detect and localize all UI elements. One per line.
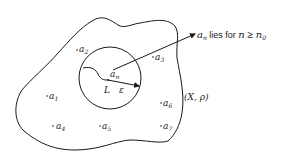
- limit-label: L: [103, 85, 110, 95]
- space-label: (X, ρ): [184, 92, 209, 102]
- sequence-point-a6: a6: [160, 98, 172, 109]
- sequence-point-a1: a1: [46, 91, 58, 102]
- sequence-point-a5: a5: [99, 121, 111, 132]
- svg-text:a1: a1: [49, 91, 58, 102]
- limit-path: [83, 67, 107, 80]
- annotation-text: an lies for n ≥ n0: [197, 29, 266, 41]
- svg-text:a5: a5: [102, 121, 111, 132]
- metric-space-boundary: [16, 18, 183, 150]
- sequence-point-a2: a2: [76, 44, 88, 55]
- limit-point-dot: [107, 79, 109, 81]
- svg-text:a4: a4: [56, 121, 65, 132]
- sequence-point-a3: a3: [152, 52, 164, 63]
- annotation-arrow: [113, 34, 195, 70]
- an-label: an: [110, 69, 119, 80]
- svg-text:a6: a6: [163, 98, 172, 109]
- svg-text:a2: a2: [79, 44, 88, 55]
- sequence-point-a7: a7: [160, 121, 172, 132]
- svg-text:a7: a7: [163, 121, 172, 132]
- svg-text:a3: a3: [155, 52, 164, 63]
- convergence-diagram: an lies for n ≥ n0 an L ε (X, ρ) a1 a2 a…: [0, 0, 293, 164]
- sequence-point-a4: a4: [52, 121, 65, 132]
- epsilon-label: ε: [119, 85, 124, 95]
